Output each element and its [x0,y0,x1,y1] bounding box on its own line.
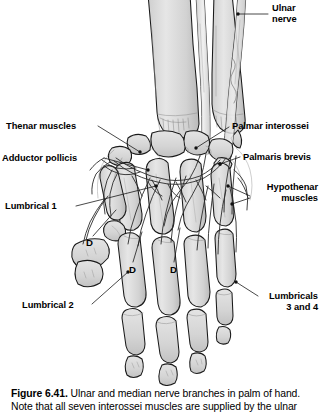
label-adductor-pollicis: Adductor pollicis [2,153,77,164]
label-hypothenar-muscles: Hypothenarmuscles [267,182,318,205]
label-adductor-pollicis-line-1: Adductor pollicis [2,153,77,164]
digit-marker-d-1: D [86,238,93,248]
dot-palmar-interossei [194,146,197,149]
dot-hypothenar-a [226,184,229,187]
leader-d-3 [174,228,180,262]
label-ulnar-nerve-line-1: Ulnar [272,3,297,14]
label-lumbrical-2: Lumbrical 2 [22,300,74,311]
label-hypothenar-muscles-line-2: muscles [267,193,318,204]
dot-adductor-pollicis [146,168,149,171]
caption-figure-number: Figure 6.41. [11,388,68,399]
dot-hypothenar-b [230,202,233,205]
label-thenar-muscles: Thenar muscles [6,121,76,132]
dot-lumbricals-34 [234,280,237,283]
caption-line-2: Note that all seven interossei muscles a… [11,400,313,413]
leader-lumbricals-34 [236,282,258,296]
label-ulnar-nerve-line-2: nerve [272,14,297,25]
label-hypothenar-muscles-line-1: Hypothenar [267,182,318,193]
label-lumbricals-3-and-4-line-1: Lumbricals [269,291,318,302]
label-palmaris-brevis-line-1: Palmaris brevis [243,152,311,163]
dot-palmaris-brevis [218,162,222,166]
dot-thenar-muscles [138,150,141,153]
digit-marker-d-2: D [129,265,136,275]
caption-line-1: Figure 6.41. Ulnar and median nerve bran… [11,387,313,400]
figure-caption: Figure 6.41. Ulnar and median nerve bran… [11,387,313,413]
illustration-ink [72,0,268,386]
label-lumbrical-1: Lumbrical 1 [5,201,57,212]
label-lumbricals-3-and-4-line-2: 3 and 4 [269,302,318,313]
label-thenar-muscles-line-1: Thenar muscles [6,121,76,132]
caption-text-1: Ulnar and median nerve branches in palm … [71,388,301,399]
label-palmar-interossei-line-1: Palmar interossei [232,121,309,132]
label-palmaris-brevis: Palmaris brevis [243,152,311,163]
label-palmar-interossei: Palmar interossei [232,121,309,132]
label-lumbrical-2-line-1: Lumbrical 2 [22,300,74,311]
thumb-bones [72,166,126,287]
label-lumbrical-1-line-1: Lumbrical 1 [5,201,57,212]
dot-lumbrical-1 [154,184,157,187]
radius-bone [148,0,199,138]
digit-marker-d-3: D [170,265,177,275]
label-ulnar-nerve: Ulnarnerve [272,3,297,26]
dot-ulnar-nerve [236,12,239,15]
label-lumbricals-3-and-4: Lumbricals3 and 4 [269,291,318,314]
